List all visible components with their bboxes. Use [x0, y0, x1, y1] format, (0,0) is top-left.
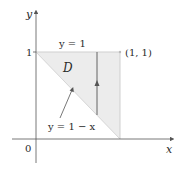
region-label: D [62, 61, 73, 75]
double-integral-region-diagram: y x 0 1 y = 1 D y = 1 − x (1, 1) [0, 0, 178, 169]
top-curve-label: y = 1 [58, 38, 86, 49]
bottom-curve-label: y = 1 − x [47, 121, 95, 132]
y-tick-label: 1 [26, 47, 32, 58]
point-1-1 [119, 51, 121, 53]
origin-label: 0 [25, 143, 31, 154]
point-label: (1, 1) [125, 47, 152, 58]
x-axis-label: x [166, 143, 173, 156]
y-axis-label: y [25, 8, 33, 21]
pointer-arrow [60, 90, 72, 118]
